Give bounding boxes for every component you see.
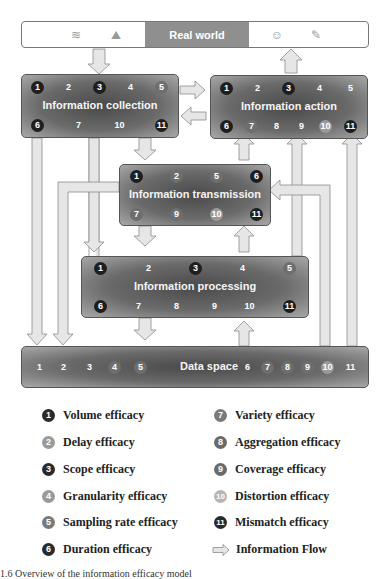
efficacy-badge: 10 [113, 119, 126, 132]
efficacy-badge: 10 [321, 361, 334, 374]
information-collection-box: 1 2 3 4 5 Information collection 6 7 10 … [21, 74, 179, 138]
efficacy-badge: 1 [42, 409, 55, 422]
efficacy-badge: 9 [170, 208, 183, 221]
efficacy-badge: 1 [220, 82, 233, 95]
legend-label: Duration efficacy [63, 542, 152, 557]
legend-label: Coverage efficacy [235, 462, 326, 477]
efficacy-badge: 8 [170, 300, 183, 313]
flow-arrow-icon [212, 544, 230, 556]
efficacy-badge: 5 [344, 82, 357, 95]
efficacy-badge: 2 [142, 262, 155, 275]
legend-label: Scope efficacy [63, 462, 135, 477]
efficacy-badge: 6 [94, 300, 107, 313]
figure-caption: 1.6 Overview of the information efficacy… [0, 568, 192, 579]
box-title: Information processing [82, 280, 308, 292]
legend-item: 5 Sampling rate efficacy [42, 515, 178, 530]
information-action-box: 1 2 3 4 5 Information action 6 7 8 9 10 … [210, 75, 368, 139]
efficacy-badge: 6 [220, 120, 233, 133]
box-title: Information transmission [120, 188, 270, 200]
efficacy-badge: 2 [62, 81, 75, 94]
efficacy-badge: 11 [250, 208, 263, 221]
efficacy-badge: 1 [94, 262, 107, 275]
efficacy-badge: 2 [57, 361, 70, 374]
legend-item: 8 Aggregation efficacy [214, 435, 340, 450]
efficacy-badge: 10 [319, 120, 332, 133]
efficacy-badge: 3 [42, 463, 55, 476]
legend-label: Information Flow [236, 542, 327, 557]
efficacy-badge: 7 [132, 300, 145, 313]
legend-label: Granularity efficacy [63, 489, 167, 504]
information-transmission-box: 1 2 5 6 Information transmission 7 9 10 … [119, 164, 271, 226]
box-title: Information collection [22, 99, 178, 111]
efficacy-badge: 5 [42, 516, 55, 529]
efficacy-badge: 4 [108, 361, 121, 374]
efficacy-badge: 4 [236, 262, 249, 275]
efficacy-badge: 5 [283, 262, 296, 275]
efficacy-badge: 3 [189, 262, 202, 275]
efficacy-badge: 2 [251, 82, 264, 95]
efficacy-badge: 6 [241, 361, 254, 374]
efficacy-badge: 3 [282, 82, 295, 95]
efficacy-badge: 11 [155, 119, 168, 132]
efficacy-badge: 4 [313, 82, 326, 95]
efficacy-badge: 5 [134, 361, 147, 374]
legend-item: 3 Scope efficacy [42, 462, 135, 477]
landscape-icon: ⛰ [108, 27, 124, 43]
efficacy-badge: 9 [214, 463, 227, 476]
real-world-label: Real world [145, 22, 249, 47]
legend-item: 4 Granularity efficacy [42, 489, 167, 504]
legend-label: Volume efficacy [63, 408, 144, 423]
efficacy-badge: 8 [281, 361, 294, 374]
efficacy-badge: 11 [283, 300, 296, 313]
efficacy-badge: 8 [214, 436, 227, 449]
box-title: Information action [211, 100, 367, 112]
efficacy-badge: 5 [155, 81, 168, 94]
legend-label: Aggregation efficacy [235, 435, 340, 450]
efficacy-badge: 1 [33, 361, 46, 374]
efficacy-badge: 6 [31, 119, 44, 132]
efficacy-badge: 10 [214, 490, 227, 503]
efficacy-badge: 9 [301, 361, 314, 374]
efficacy-badge: 6 [42, 543, 55, 556]
legend-label: Delay efficacy [63, 435, 135, 450]
efficacy-badge: 11 [344, 361, 357, 374]
real-world-bar: ≋ ⛰ Real world ☺ ✎ [21, 21, 369, 48]
legend-item: 7 Variety efficacy [214, 408, 315, 423]
efficacy-badge: 4 [124, 81, 137, 94]
efficacy-badge: 11 [344, 120, 357, 133]
efficacy-badge: 9 [208, 300, 221, 313]
legend-label: Sampling rate efficacy [63, 515, 178, 530]
legend-item-flow: Information Flow [212, 542, 327, 557]
edit-document-icon: ✎ [308, 27, 324, 43]
efficacy-badge: 10 [243, 300, 256, 313]
efficacy-badge: 4 [42, 490, 55, 503]
efficacy-badge: 11 [214, 516, 227, 529]
information-processing-box: 1 2 3 4 5 Information processing 6 7 8 9… [81, 256, 309, 318]
efficacy-badge: 5 [210, 170, 223, 183]
legend-item: 6 Duration efficacy [42, 542, 152, 557]
efficacy-badge: 1 [130, 170, 143, 183]
legend-label: Variety efficacy [235, 408, 315, 423]
efficacy-badge: 7 [130, 208, 143, 221]
legend-item: 11 Mismatch efficacy [214, 515, 329, 530]
legend-item: 2 Delay efficacy [42, 435, 135, 450]
legend-item: 1 Volume efficacy [42, 408, 144, 423]
head-brain-icon: ☺ [269, 27, 285, 43]
efficacy-badge: 10 [210, 208, 223, 221]
efficacy-badge: 1 [31, 81, 44, 94]
efficacy-badge: 2 [170, 170, 183, 183]
data-space-box: 1 2 3 4 5 Data space 6 7 8 9 10 11 [21, 346, 369, 388]
efficacy-badge: 3 [83, 361, 96, 374]
efficacy-badge: 7 [245, 120, 258, 133]
efficacy-badge: 7 [214, 409, 227, 422]
efficacy-badge: 9 [295, 120, 308, 133]
efficacy-badge: 7 [72, 119, 85, 132]
legend-label: Mismatch efficacy [235, 515, 329, 530]
efficacy-badge: 8 [270, 120, 283, 133]
legend-label: Distortion efficacy [235, 489, 329, 504]
waves-icon: ≋ [68, 27, 84, 43]
efficacy-badge: 7 [261, 361, 274, 374]
legend-item: 10 Distortion efficacy [214, 489, 329, 504]
efficacy-badge: 6 [250, 170, 263, 183]
efficacy-badge: 2 [42, 436, 55, 449]
